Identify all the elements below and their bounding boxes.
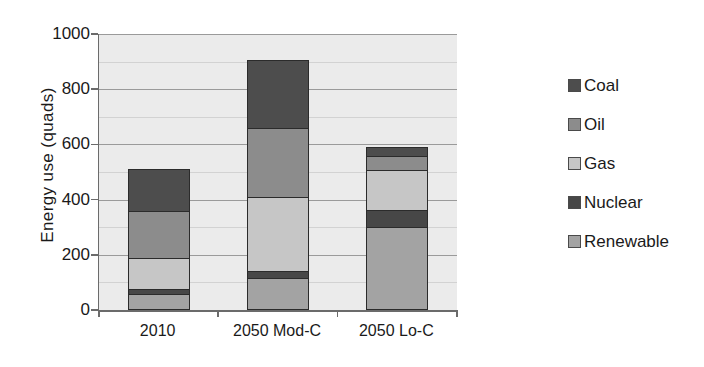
x-axis-tick-label: 2010 bbox=[140, 322, 176, 340]
legend-swatch-icon bbox=[568, 235, 581, 248]
bar-segment-gas bbox=[366, 170, 428, 211]
y-axis-tick-label: 800 bbox=[24, 79, 90, 99]
x-axis-tick-mark bbox=[217, 310, 219, 317]
legend-item-gas[interactable]: Gas bbox=[568, 144, 669, 183]
x-axis-tick-label: 2050 Lo-C bbox=[359, 322, 434, 340]
bar-segment-gas bbox=[128, 258, 190, 290]
bar-segment-renewable bbox=[247, 278, 309, 310]
x-axis-tick-mark bbox=[98, 310, 100, 317]
bar-segment-coal bbox=[128, 169, 190, 212]
bar-segment-renewable bbox=[366, 227, 428, 310]
legend-item-nuclear[interactable]: Nuclear bbox=[568, 183, 669, 222]
legend-label: Coal bbox=[584, 76, 619, 96]
bar-segment-nuclear bbox=[366, 210, 428, 228]
y-axis-tick-label: 400 bbox=[24, 190, 90, 210]
bar-2050-lo-c bbox=[366, 147, 428, 310]
legend-label: Gas bbox=[584, 154, 615, 174]
y-axis-tick-mark bbox=[91, 254, 98, 256]
y-axis-tick-mark bbox=[91, 199, 98, 201]
legend-label: Nuclear bbox=[584, 193, 643, 213]
y-axis-tick-mark bbox=[91, 144, 98, 146]
bar-segment-coal bbox=[247, 60, 309, 129]
legend-label: Oil bbox=[584, 115, 605, 135]
x-axis-line bbox=[98, 310, 456, 312]
legend-swatch-icon bbox=[568, 79, 581, 92]
y-axis-tick-mark bbox=[91, 309, 98, 311]
y-axis-tick-label: 0 bbox=[24, 300, 90, 320]
bar-segment-oil bbox=[366, 156, 428, 171]
plot-area bbox=[98, 34, 457, 310]
y-axis-tick-mark bbox=[91, 88, 98, 90]
legend-item-renewable[interactable]: Renewable bbox=[568, 222, 669, 261]
bar-segment-renewable bbox=[128, 294, 190, 310]
gridline-major bbox=[99, 34, 457, 35]
legend-label: Renewable bbox=[584, 232, 669, 252]
legend-swatch-icon bbox=[568, 196, 581, 209]
x-axis-tick-mark bbox=[456, 310, 458, 317]
bar-segment-gas bbox=[247, 197, 309, 272]
legend-item-oil[interactable]: Oil bbox=[568, 105, 669, 144]
legend-item-coal[interactable]: Coal bbox=[568, 66, 669, 105]
x-axis-tick-label: 2050 Mod-C bbox=[233, 322, 321, 340]
bar-2010 bbox=[128, 169, 190, 310]
stacked-bar-chart: Energy use (quads) 02004006008001000 201… bbox=[0, 0, 704, 367]
legend: CoalOilGasNuclearRenewable bbox=[568, 66, 669, 261]
y-axis-tick-label: 1000 bbox=[24, 24, 90, 44]
bar-segment-oil bbox=[247, 128, 309, 198]
y-axis-tick-label: 200 bbox=[24, 245, 90, 265]
legend-swatch-icon bbox=[568, 157, 581, 170]
y-axis-tick-label: 600 bbox=[24, 134, 90, 154]
bar-segment-oil bbox=[128, 211, 190, 259]
legend-swatch-icon bbox=[568, 118, 581, 131]
y-axis-tick-labels: 02004006008001000 bbox=[24, 0, 90, 367]
bar-2050-mod-c bbox=[247, 60, 309, 310]
x-axis-tick-mark bbox=[337, 310, 339, 317]
y-axis-tick-mark bbox=[91, 33, 98, 35]
